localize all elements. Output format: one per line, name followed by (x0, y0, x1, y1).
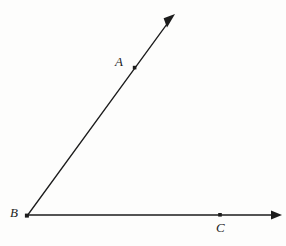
angle-diagram-figure: A B C (0, 0, 286, 246)
ray-bc-arrowhead-icon (271, 211, 282, 220)
ray-bc (27, 211, 282, 220)
ray-ba (27, 14, 175, 216)
point-marker-c (218, 213, 222, 217)
point-label-a: A (115, 55, 123, 68)
point-marker-b (25, 214, 29, 218)
point-marker-a (133, 66, 137, 70)
point-label-c: C (216, 221, 225, 234)
diagram-canvas (0, 0, 286, 246)
point-label-b: B (10, 206, 18, 219)
ray-ba-line (27, 22, 168, 216)
